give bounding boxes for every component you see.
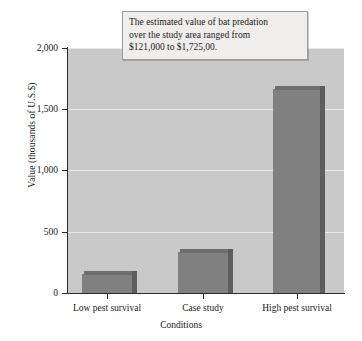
- annotation-line-3: $121,000 to $1,725,00.: [129, 41, 301, 54]
- y-tick-2000: [62, 48, 67, 49]
- y-tick-label-500: 500: [0, 227, 58, 237]
- y-tick-0: [62, 293, 67, 294]
- plot-area: [68, 48, 344, 293]
- y-axis-line: [67, 47, 68, 294]
- bar-low-pest-survival-side-face: [132, 271, 137, 293]
- x-axis-line: [67, 293, 345, 294]
- y-tick-1500: [62, 109, 67, 110]
- y-axis-title: Value (thousands of U.S.$): [27, 55, 37, 215]
- y-tick-500: [62, 232, 67, 233]
- y-tick-label-2000: 2,000: [0, 43, 58, 53]
- annotation-line-1: The estimated value of bat predation: [129, 16, 301, 29]
- x-axis-title: Conditions: [0, 320, 362, 330]
- x-tick-label-high-pest-survival: High pest survival: [237, 303, 357, 313]
- bar-low-pest-survival-top-face: [84, 271, 135, 275]
- y-tick-label-1500: 1,500: [0, 104, 58, 114]
- bar-case-study-side-face: [228, 249, 233, 293]
- bar-high-pest-survival-top-face: [275, 86, 323, 90]
- bar-high-pest-survival: [273, 89, 320, 293]
- bar-low-pest-survival: [82, 274, 132, 293]
- x-tick-case-study: [203, 294, 204, 299]
- y-tick-label-1000: 1,000: [0, 165, 58, 175]
- x-tick-low-pest-survival: [107, 294, 108, 299]
- bar-high-pest-survival-side-face: [320, 86, 325, 293]
- annotation-callout: The estimated value of bat predation ove…: [122, 11, 308, 60]
- annotation-line-2: over the study area ranged from: [129, 29, 301, 42]
- bar-case-study-top-face: [180, 249, 231, 253]
- bar-case-study: [178, 252, 228, 293]
- bar-chart-figure: Value (thousands of U.S.$) 2,000 1,500 1…: [0, 0, 362, 341]
- x-tick-high-pest-survival: [297, 294, 298, 299]
- y-tick-label-0: 0: [0, 288, 58, 298]
- y-tick-1000: [62, 170, 67, 171]
